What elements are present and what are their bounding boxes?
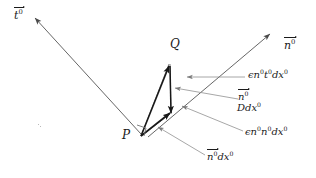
dx-symbol: dx xyxy=(271,126,283,137)
label-epsilon-n-t-dx: ϵn0t0dx0 xyxy=(248,70,288,80)
label-n-vector: n0 xyxy=(284,40,295,51)
scan-speck xyxy=(38,124,39,125)
diagram-canvas xyxy=(0,0,316,178)
n-vector-overarrow: n0 xyxy=(238,92,248,102)
vector-Q-to-R xyxy=(170,66,171,113)
dx-symbol: dx xyxy=(217,151,229,162)
n-superscript: 0 xyxy=(213,150,217,157)
t-vector-ray xyxy=(35,18,141,134)
dx-symbol: dx xyxy=(272,69,284,80)
label-n-D-dx: n0 Ddx0 xyxy=(237,92,261,113)
t-vector-superscript: 0 xyxy=(18,8,22,16)
n-vector-ray xyxy=(148,34,270,137)
n-superscript: 0 xyxy=(244,90,248,97)
label-n-dx: n0 dx0 xyxy=(207,152,233,162)
dx-superscript: 0 xyxy=(229,150,233,157)
dx-superscript: 0 xyxy=(257,101,261,108)
scan-speck xyxy=(40,126,41,127)
dx-superscript: 0 xyxy=(283,125,287,132)
n-vector-overarrow: n0 xyxy=(207,152,217,162)
label-epsilon-n-n-dx: ϵn0n0dx0 xyxy=(245,127,287,137)
leader-epsilon-n-n-dx xyxy=(182,106,243,131)
n-vector-superscript: 0 xyxy=(291,38,295,46)
D-symbol: D xyxy=(237,102,245,113)
n-vector-overarrow: n0 xyxy=(284,40,295,51)
leader-n-dx xyxy=(158,127,205,155)
label-point-Q: Q xyxy=(170,38,180,50)
vector-diagram-figure: t0 n0 Q P ϵn0t0dx0 n0 Ddx0 ϵn0n0dx0 n0 xyxy=(0,0,316,178)
dx-symbol: dx xyxy=(245,102,257,113)
dx-superscript: 0 xyxy=(284,68,288,75)
label-t-vector: t0 xyxy=(14,10,23,21)
t-vector-overarrow: t0 xyxy=(14,10,23,21)
leader-n-D-dx xyxy=(175,88,238,99)
label-point-P: P xyxy=(122,129,130,141)
